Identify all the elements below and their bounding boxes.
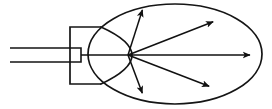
ray-upper-left (128, 10, 142, 55)
diagram-canvas (0, 0, 272, 109)
ray-lower-left (128, 55, 142, 93)
ray-lower-right (128, 55, 209, 86)
dispersion-field-ellipse (88, 4, 262, 104)
beam-dispersion-diagram (0, 0, 272, 109)
ray-upper-right (128, 22, 213, 55)
